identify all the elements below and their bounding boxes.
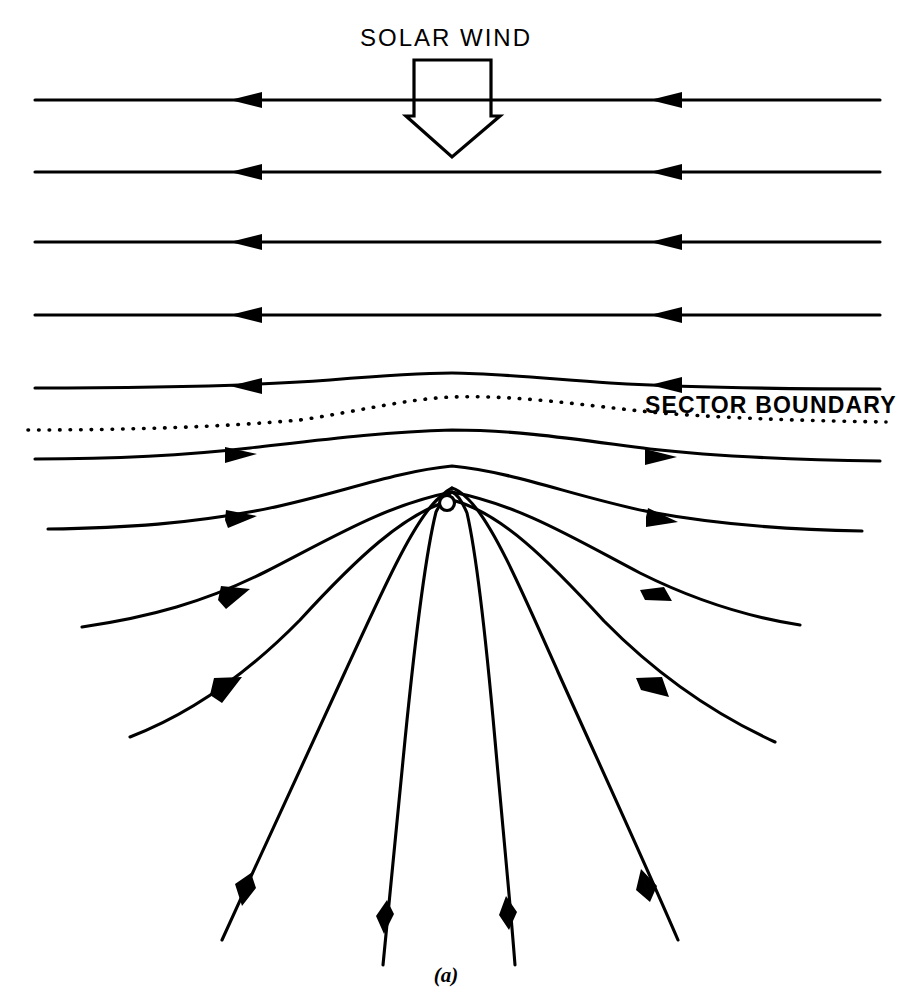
field-line-9 [130, 500, 775, 742]
tail-line-inner-right [452, 488, 678, 940]
central-body-circle [440, 496, 455, 511]
solar-wind-arrow [406, 60, 500, 157]
field-line-3 [35, 234, 880, 250]
field-line-6 [35, 430, 880, 465]
field-line-group-lower [35, 430, 880, 965]
field-line-5 [35, 373, 880, 394]
field-line-4 [35, 307, 880, 323]
tail-line-core-left [376, 492, 452, 965]
sector-boundary-label: SECTOR BOUNDARY [645, 392, 897, 419]
field-line-7 [48, 466, 862, 531]
panel-label: (a) [0, 963, 892, 988]
tail-line-inner-left [222, 488, 452, 940]
field-line-2 [35, 164, 880, 180]
field-line-8 [82, 492, 800, 627]
solar-wind-label: SOLAR WIND [0, 24, 892, 52]
